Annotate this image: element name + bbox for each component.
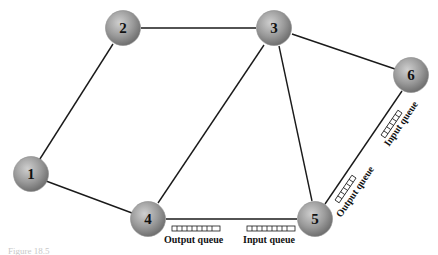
node-5: 5 — [298, 202, 333, 237]
edge-1-4 — [46, 181, 132, 213]
queue-input-5 — [247, 226, 295, 231]
node-6-label: 6 — [407, 67, 415, 83]
queue-label-input-6: Input queue — [382, 99, 421, 149]
node-6: 6 — [394, 58, 429, 93]
node-2: 2 — [106, 11, 141, 46]
node-4: 4 — [131, 202, 166, 237]
node-5-label: 5 — [311, 211, 319, 227]
edge-3-5 — [279, 46, 312, 201]
edge-3-4 — [158, 45, 264, 203]
node-4-label: 4 — [144, 211, 152, 227]
edge-3-6 — [292, 34, 395, 69]
network-diagram: Output queue Input queue Output queue In… — [0, 0, 438, 255]
node-3: 3 — [257, 11, 292, 46]
node-1-label: 1 — [27, 166, 35, 182]
queue-label-output-4: Output queue — [164, 234, 224, 245]
node-2-label: 2 — [119, 20, 127, 36]
node-3-label: 3 — [270, 20, 278, 36]
queue-label-output-5: Output queue — [334, 164, 377, 220]
figure-caption: Figure 18.5 — [8, 246, 50, 255]
queue-output-4 — [172, 226, 220, 231]
edge-1-2 — [38, 44, 113, 162]
node-1: 1 — [14, 157, 49, 192]
queue-label-input-5: Input queue — [243, 234, 296, 245]
